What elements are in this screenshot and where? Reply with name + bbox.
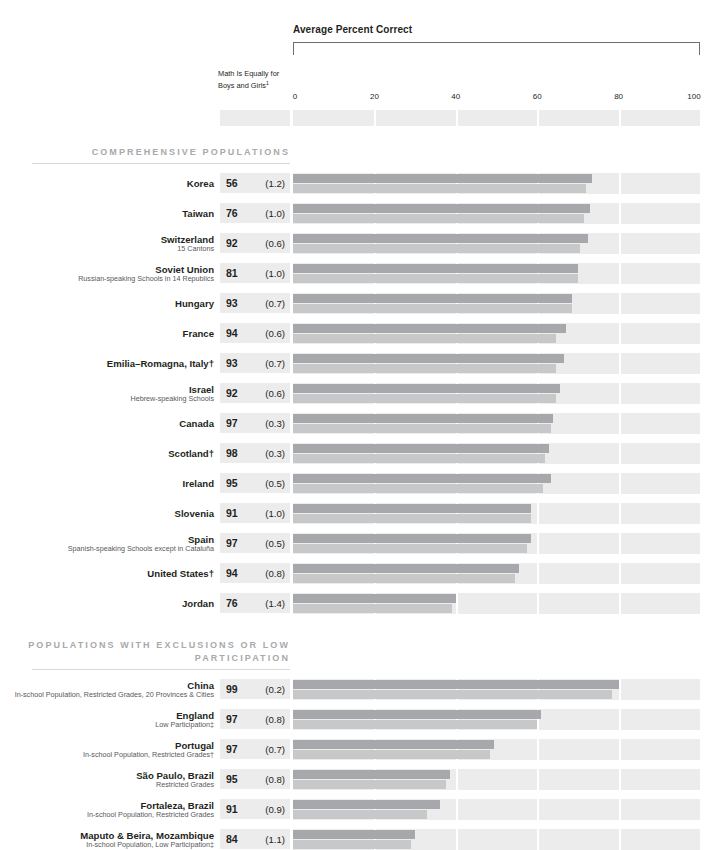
row-value-box: 92(0.6) <box>220 383 290 403</box>
row-label: EnglandLow Participation‡ <box>0 710 214 730</box>
row-track <box>293 443 700 464</box>
row-bar-lower <box>293 514 531 523</box>
row-percent: 94 <box>226 327 238 339</box>
row-track <box>293 799 700 820</box>
row-bar-upper <box>293 384 560 393</box>
column-header-text: Math Is Equally for Boys and Girls <box>218 69 279 90</box>
row-label: Taiwan <box>0 208 214 219</box>
row-percent: 91 <box>226 507 238 519</box>
row-label-name: France <box>0 328 214 339</box>
row-value-box: 76(1.0) <box>220 203 290 223</box>
track-segment <box>458 593 537 614</box>
row-standard-error: (1.2) <box>265 178 285 189</box>
row-track <box>293 473 700 494</box>
row-bar-lower <box>293 364 556 373</box>
row-label-sub: In-school Population, Low Participation‡ <box>0 841 214 850</box>
row-percent: 97 <box>226 713 238 725</box>
row-track <box>293 533 700 554</box>
track-segment <box>621 443 700 464</box>
row-standard-error: (0.6) <box>265 238 285 249</box>
row-track <box>293 563 700 584</box>
row-bar-upper <box>293 594 456 603</box>
track-segment <box>621 563 700 584</box>
chart-row: SpainSpanish-speaking Schools except in … <box>0 531 711 561</box>
track-segment <box>621 353 700 374</box>
row-label-sub: In-school Population, Restricted Grades <box>0 811 214 820</box>
row-bar-lower <box>293 720 537 729</box>
row-value-box: 97(0.5) <box>220 533 290 553</box>
row-bar-upper <box>293 474 551 483</box>
row-percent: 76 <box>226 597 238 609</box>
chart-row: IsraelHebrew-speaking Schools92(0.6) <box>0 381 711 411</box>
header-track-segment <box>376 110 455 126</box>
chart-row: Maputo & Beira, MozambiqueIn-school Popu… <box>0 827 711 850</box>
row-label: IsraelHebrew-speaking Schools <box>0 384 214 404</box>
row-standard-error: (0.8) <box>265 714 285 725</box>
row-standard-error: (0.7) <box>265 744 285 755</box>
row-label-sub: Low Participation‡ <box>0 721 214 730</box>
track-segment <box>539 503 618 524</box>
row-standard-error: (1.0) <box>265 508 285 519</box>
chart-title: Average Percent Correct <box>293 24 412 35</box>
row-value-box: 93(0.7) <box>220 353 290 373</box>
row-track <box>293 383 700 404</box>
row-track <box>293 293 700 314</box>
row-bar-upper <box>293 414 553 423</box>
chart-row: Soviet UnionRussian-speaking Schools in … <box>0 261 711 291</box>
row-percent: 92 <box>226 237 238 249</box>
axis-tick-100: 100 <box>687 92 700 101</box>
chart-row: Emilia–Romagna, Italy†93(0.7) <box>0 351 711 381</box>
chart-row: Fortaleza, BrazilIn-school Population, R… <box>0 797 711 827</box>
column-header-footnote-marker: 1 <box>266 80 269 86</box>
track-segment <box>621 323 700 344</box>
row-value-box: 91(1.0) <box>220 503 290 523</box>
row-label-name: Scotland† <box>0 448 214 459</box>
row-track <box>293 679 700 700</box>
axis-tick-60: 60 <box>533 92 542 101</box>
row-standard-error: (0.8) <box>265 568 285 579</box>
row-percent: 91 <box>226 803 238 815</box>
header-track-segment <box>539 110 618 126</box>
row-label: Hungary <box>0 298 214 309</box>
track-segment <box>458 769 537 790</box>
row-percent: 93 <box>226 357 238 369</box>
row-bar-lower <box>293 304 572 313</box>
row-standard-error: (1.0) <box>265 268 285 279</box>
axis-tick-20: 20 <box>370 92 379 101</box>
row-standard-error: (1.1) <box>265 834 285 845</box>
track-segment <box>539 829 618 850</box>
track-segment <box>621 533 700 554</box>
chart-row: ChinaIn-school Population, Restricted Gr… <box>0 677 711 707</box>
row-value-box: 99(0.2) <box>220 679 290 699</box>
row-label: Ireland <box>0 478 214 489</box>
row-bar-upper <box>293 710 541 719</box>
chart-row: Korea56(1.2) <box>0 171 711 201</box>
row-bar-upper <box>293 294 572 303</box>
track-segment <box>621 473 700 494</box>
row-bar-upper <box>293 444 549 453</box>
row-bar-lower <box>293 544 527 553</box>
row-label: Slovenia <box>0 508 214 519</box>
row-bar-upper <box>293 800 440 809</box>
row-value-box: 81(1.0) <box>220 263 290 283</box>
row-bar-lower <box>293 810 427 819</box>
row-label: SpainSpanish-speaking Schools except in … <box>0 534 214 554</box>
row-label-sub: Russian-speaking Schools in 14 Republics <box>0 275 214 284</box>
row-standard-error: (0.5) <box>265 538 285 549</box>
row-bar-upper <box>293 234 588 243</box>
row-value-box: 93(0.7) <box>220 293 290 313</box>
row-label-sub: 15 Cantons <box>0 245 214 254</box>
track-segment <box>539 533 618 554</box>
row-percent: 84 <box>226 833 238 845</box>
row-bar-lower <box>293 424 551 433</box>
row-track <box>293 739 700 760</box>
row-bar-lower <box>293 454 545 463</box>
row-bar-lower <box>293 484 543 493</box>
row-percent: 56 <box>226 177 238 189</box>
row-label: Canada <box>0 418 214 429</box>
column-header-math-equally: Math Is Equally for Boys and Girls1 <box>218 70 290 91</box>
track-segment <box>539 563 618 584</box>
row-value-box: 76(1.4) <box>220 593 290 613</box>
row-standard-error: (0.9) <box>265 804 285 815</box>
row-value-box: 91(0.9) <box>220 799 290 819</box>
